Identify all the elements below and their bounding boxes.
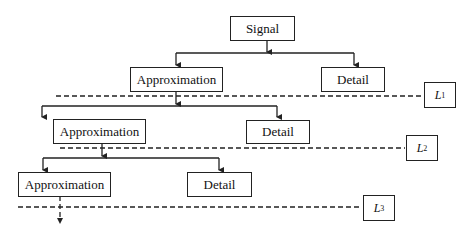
approximation-node-level-2: Approximation	[53, 119, 146, 144]
signal-node: Signal	[230, 16, 295, 41]
level-3-label: L3	[363, 195, 395, 221]
detail-node-level-2: Detail	[246, 120, 310, 144]
level-2-label: L2	[406, 135, 438, 161]
approximation-node-level-1: Approximation	[130, 67, 223, 92]
detail-node-level-1: Detail	[321, 67, 385, 92]
approximation-node-level-3: Approximation	[18, 172, 111, 197]
level-1-label: L1	[424, 82, 456, 108]
detail-node-level-3: Detail	[187, 172, 252, 197]
